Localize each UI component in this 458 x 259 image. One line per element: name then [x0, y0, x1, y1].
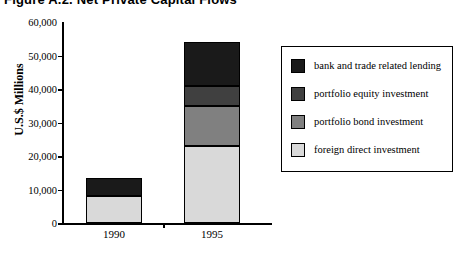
y-axis-tick-mark	[58, 89, 64, 91]
legend-swatch-icon	[291, 87, 305, 101]
x-axis-tick-labels: 19901995	[62, 228, 282, 248]
y-axis-tick-mark	[58, 156, 64, 158]
legend-swatch-icon	[291, 115, 305, 129]
y-axis-title: U.S.$ Millions	[12, 45, 27, 155]
legend-item-label: portfolio equity investment	[314, 89, 428, 100]
legend-item: portfolio bond investment	[291, 111, 423, 133]
figure-container: Figure A.2. Net Private Capital Flows 60…	[0, 0, 458, 259]
plot-area	[62, 22, 258, 223]
x-axis-tick-label: 1995	[201, 228, 223, 240]
legend-item-label: foreign direct investment	[314, 145, 420, 156]
y-axis-tick-labels: 60,00050,00040,00030,00020,00010,0000	[0, 0, 57, 259]
bar-segment	[184, 106, 240, 146]
bar-segment	[86, 196, 142, 223]
x-axis-line	[58, 223, 272, 225]
y-axis-tick-label: 10,000	[28, 184, 57, 195]
y-axis-tick-mark	[58, 123, 64, 125]
y-axis-tick-label: 20,000	[28, 151, 57, 162]
legend-item-label: bank and trade related lending	[314, 61, 441, 72]
legend-item: foreign direct investment	[291, 139, 420, 161]
bar-1995	[184, 42, 240, 223]
bar-segment	[184, 42, 240, 86]
legend-item: bank and trade related lending	[291, 55, 441, 77]
y-axis-tick-label: 60,000	[28, 17, 57, 28]
legend-swatch-icon	[291, 59, 305, 73]
bar-segment	[184, 146, 240, 223]
y-axis-tick-mark	[58, 56, 64, 58]
legend-item: portfolio equity investment	[291, 83, 428, 105]
bar-segment	[184, 86, 240, 106]
y-axis-tick-label: 40,000	[28, 84, 57, 95]
legend-item-label: portfolio bond investment	[314, 117, 423, 128]
y-axis-tick-label: 0	[52, 218, 57, 229]
y-axis-tick-label: 50,000	[28, 50, 57, 61]
bar-1990	[86, 178, 142, 223]
chart-legend: bank and trade related lendingportfolio …	[281, 46, 453, 172]
bar-segment	[86, 178, 142, 196]
legend-swatch-icon	[291, 143, 305, 157]
y-axis-tick-mark	[58, 190, 64, 192]
y-axis-tick-label: 30,000	[28, 117, 57, 128]
x-axis-tick-label: 1990	[103, 228, 125, 240]
